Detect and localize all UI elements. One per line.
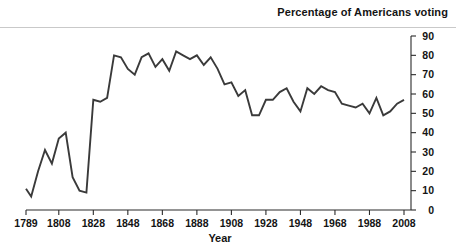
y-axis-tick-label: 40: [422, 126, 434, 138]
y-axis-tick-label: 90: [422, 30, 434, 42]
x-axis: 1789180818281848186818881908192819481968…: [14, 210, 416, 229]
y-axis-tick-label: 80: [422, 49, 434, 61]
chart-figure: Percentage of Americans voting Year 9080…: [0, 0, 456, 251]
y-axis-tick-label: 70: [422, 68, 434, 80]
x-axis-tick-label: 1988: [358, 217, 382, 229]
y-axis-tick-label: 0: [428, 204, 434, 216]
x-axis-tick-label: 1808: [47, 217, 71, 229]
header-divider: [0, 27, 456, 28]
x-axis-tick-label: 1848: [116, 217, 140, 229]
x-axis-tick-label: 1928: [254, 217, 278, 229]
y-axis-tick-label: 30: [422, 146, 434, 158]
x-axis-tick-label: 1789: [14, 217, 38, 229]
x-axis-tick-label: 2008: [392, 217, 416, 229]
y-axis-tick-label: 50: [422, 107, 434, 119]
chart-title: Percentage of Americans voting: [277, 6, 448, 18]
x-axis-tick-label: 1948: [289, 217, 313, 229]
x-axis-tick-label: 1968: [323, 217, 347, 229]
data-series-group: [26, 51, 404, 196]
x-axis-label: Year: [0, 232, 440, 244]
y-axis-tick-label: 60: [422, 88, 434, 100]
y-axis: 9080706050403020100: [411, 30, 434, 216]
y-axis-tick-label: 20: [422, 165, 434, 177]
x-axis-tick-label: 1828: [82, 217, 106, 229]
line-chart-plot: 9080706050403020100 17891808182818481868…: [0, 0, 456, 251]
x-axis-tick-label: 1868: [151, 217, 175, 229]
y-axis-tick-label: 10: [422, 184, 434, 196]
x-axis-tick-label: 1908: [220, 217, 244, 229]
x-axis-tick-label: 1888: [185, 217, 209, 229]
data-series-line: [26, 51, 404, 196]
